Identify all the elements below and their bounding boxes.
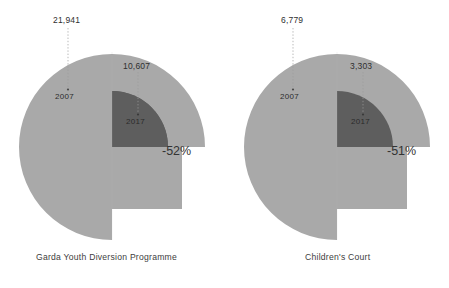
caption-right: Children's Court [305, 252, 370, 262]
chart-childrens-court [244, 28, 430, 240]
value-label-2007-right: 6,779 [281, 15, 303, 25]
value-label-2017-left: 10,607 [123, 61, 150, 71]
year-label-2007-left: 2007 [55, 92, 74, 101]
value-label-2017-right: 3,303 [350, 61, 372, 71]
value-label-2007-left: 21,941 [53, 15, 80, 25]
change-label-right: -51% [387, 144, 416, 158]
leader-dot-2017-left [137, 113, 139, 115]
year-label-2017-right: 2017 [351, 117, 370, 126]
leader-dot-2007-right [292, 88, 294, 90]
change-label-left: -52% [162, 144, 191, 158]
year-label-2017-left: 2017 [126, 117, 145, 126]
figure-container: 21,941 2007 10,607 2017 -52% Garda Youth… [0, 0, 449, 288]
leader-dot-2017-right [362, 113, 364, 115]
pie-charts-svg [0, 0, 449, 288]
caption-left: Garda Youth Diversion Programme [36, 252, 177, 262]
year-label-2007-right: 2007 [280, 92, 299, 101]
leader-dot-2007-left [67, 88, 69, 90]
chart-garda-youth-diversion [19, 28, 205, 240]
